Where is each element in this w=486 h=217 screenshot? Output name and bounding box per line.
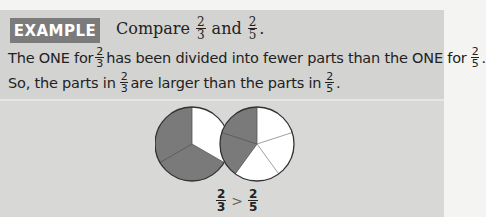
title-prefix: Compare bbox=[116, 19, 190, 38]
fraction-two-fifths: 2 5 bbox=[325, 71, 334, 94]
title-period: . bbox=[259, 19, 264, 38]
denominator: 3 bbox=[121, 83, 128, 94]
explanation-line-1: The ONE for 2 3 has been divided into fe… bbox=[8, 46, 486, 69]
denominator: 3 bbox=[96, 58, 103, 69]
denominator: 3 bbox=[217, 201, 225, 213]
text-segment: are larger than the parts in bbox=[130, 75, 321, 91]
fraction-two-thirds: 2 3 bbox=[120, 71, 129, 94]
example-badge: EXAMPLE bbox=[10, 18, 100, 43]
period: . bbox=[481, 50, 485, 66]
fraction-two-fifths: 2 5 bbox=[248, 16, 258, 41]
denominator: 3 bbox=[197, 29, 205, 41]
explanation-line-2: So, the parts in 2 3 are larger than the… bbox=[8, 71, 341, 94]
fraction-two-fifths: 2 5 bbox=[248, 188, 258, 213]
greater-than-symbol: > bbox=[231, 193, 243, 209]
fraction-pie-charts bbox=[155, 104, 295, 184]
denominator: 5 bbox=[249, 29, 257, 41]
pie-fifths bbox=[220, 107, 294, 181]
fraction-two-thirds: 2 3 bbox=[95, 46, 104, 69]
period: . bbox=[336, 75, 340, 91]
comparison-result: 2 3 > 2 5 bbox=[214, 188, 260, 213]
denominator: 5 bbox=[472, 58, 479, 69]
denominator: 5 bbox=[249, 201, 257, 213]
pie-thirds bbox=[155, 107, 229, 181]
fraction-two-fifths: 2 5 bbox=[471, 46, 480, 69]
text-segment: The ONE for bbox=[8, 50, 93, 66]
text-segment: has been divided into fewer parts than t… bbox=[106, 50, 466, 66]
title-and: and bbox=[212, 19, 242, 38]
fraction-two-thirds: 2 3 bbox=[196, 16, 206, 41]
fraction-two-thirds: 2 3 bbox=[216, 188, 226, 213]
text-segment: So, the parts in bbox=[8, 75, 116, 91]
example-title: Compare 2 3 and 2 5 . bbox=[116, 16, 264, 41]
denominator: 5 bbox=[326, 83, 333, 94]
